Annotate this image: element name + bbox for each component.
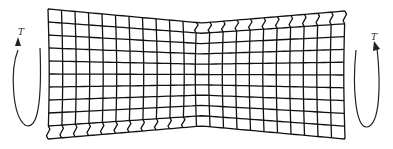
grid-row-line [49,61,344,64]
torque-label-left: T [18,27,25,37]
torsion-grid-diagram: T T [0,0,393,149]
grid-row-line [49,95,344,100]
torque-right: T [354,32,380,127]
grid-column-line [46,9,49,139]
grid-row-line [49,74,344,75]
torque-label-right: T [371,32,378,42]
grid-column-line [343,11,346,139]
deformed-grid [46,9,346,139]
arrowhead-left-icon [15,37,21,46]
arrowhead-right-icon [373,41,380,51]
torque-loop-left-icon [13,48,40,126]
torque-left: T [13,27,40,126]
grid-row-line [48,9,345,23]
grid-row-line [49,48,344,54]
torque-loop-right-icon [354,48,379,127]
grid-row-line [49,85,344,88]
grid-row-line [48,126,345,139]
